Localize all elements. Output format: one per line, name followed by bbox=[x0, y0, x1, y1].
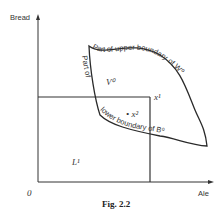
origin-label: 0 bbox=[27, 188, 32, 198]
x-axis-label: Ale bbox=[198, 189, 209, 198]
diagram: Part of upper boundary of W⁰ Part of low… bbox=[0, 0, 224, 217]
y-axis-arrow-icon bbox=[36, 14, 40, 20]
v0-label: V⁰ bbox=[106, 77, 116, 87]
l1-label: L¹ bbox=[71, 157, 80, 167]
y-axis-label: Bread bbox=[10, 13, 30, 22]
x-axis-arrow-icon bbox=[208, 180, 214, 184]
figure-caption: Fig. 2.2 bbox=[102, 199, 131, 209]
x1-label: x¹ bbox=[153, 92, 161, 102]
upper-boundary-label: Part of upper boundary of W⁰ bbox=[91, 42, 186, 76]
x2-label: • x² bbox=[126, 109, 138, 119]
lower-left-label: Part of bbox=[80, 55, 93, 79]
